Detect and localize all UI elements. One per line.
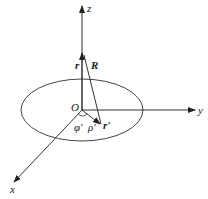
r-label: r <box>75 59 80 71</box>
phi-prime-arc <box>78 114 87 116</box>
y-axis-label: y <box>197 104 203 116</box>
origin-label: O <box>71 101 79 113</box>
coordinate-diagram: z y x O r R r' φ' ρ' <box>0 0 208 199</box>
z-axis-label: z <box>86 2 92 14</box>
r-prime-label: r' <box>103 119 110 131</box>
rho-prime-label: ρ' <box>87 121 96 133</box>
x-axis-label: x <box>9 183 15 195</box>
R-label: R <box>90 59 98 71</box>
phi-prime-label: φ' <box>74 121 83 133</box>
